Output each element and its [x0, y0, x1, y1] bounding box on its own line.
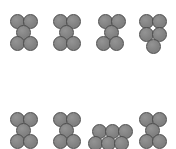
sphere — [23, 134, 38, 149]
sphere — [146, 39, 161, 54]
sphere — [66, 36, 81, 51]
sphere-cluster-figure — [0, 0, 176, 149]
sphere — [109, 36, 124, 51]
sphere — [23, 36, 38, 51]
sphere — [114, 136, 129, 149]
sphere — [66, 134, 81, 149]
sphere — [152, 134, 167, 149]
